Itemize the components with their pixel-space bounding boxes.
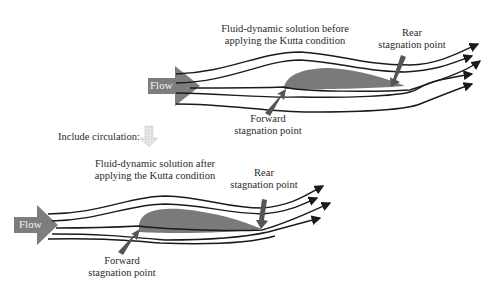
forward-stagnation-pointer-icon (265, 89, 286, 116)
top-title-line1: Fluid-dynamic solution before (200, 23, 370, 35)
top-rear-label: Rear stagnation point (362, 27, 462, 51)
forward-label-line2: stagnation point (72, 267, 172, 279)
forward-label-line1: Forward (218, 113, 318, 125)
top-title-line2: applying the Kutta condition (200, 35, 370, 47)
include-circulation-label: Include circulation: (58, 131, 140, 143)
rear-label-line2: stagnation point (362, 39, 462, 51)
bottom-forward-label: Forward stagnation point (72, 255, 172, 279)
top-panel (148, 44, 480, 116)
bottom-rear-label: Rear stagnation point (214, 167, 314, 191)
top-forward-label: Forward stagnation point (218, 113, 318, 137)
top-flow-label: Flow (150, 79, 173, 91)
down-arrow-icon (140, 126, 158, 147)
rear-label-line1: Rear (214, 167, 314, 179)
forward-label-line1: Forward (72, 255, 172, 267)
rear-label-line2: stagnation point (214, 179, 314, 191)
rear-label-line1: Rear (362, 27, 462, 39)
top-title: Fluid-dynamic solution before applying t… (200, 23, 370, 47)
forward-stagnation-pointer-icon (118, 229, 140, 255)
bottom-panel (14, 186, 330, 255)
forward-label-line2: stagnation point (218, 125, 318, 137)
bottom-flow-label: Flow (19, 218, 42, 230)
